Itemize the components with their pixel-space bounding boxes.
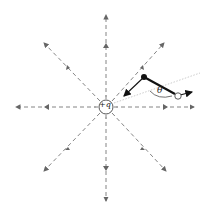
field-line-southwest — [44, 113, 100, 171]
field-line-northwest — [44, 43, 100, 101]
field-line-southeast — [112, 113, 166, 171]
charge-label: +q — [99, 101, 111, 109]
force-on-negative-arrow — [124, 77, 144, 96]
force-on-positive-arrow — [180, 92, 192, 95]
negative-charge-dot — [141, 74, 147, 80]
angle-label: θ — [157, 86, 162, 95]
positive-charge-circle — [175, 93, 181, 99]
